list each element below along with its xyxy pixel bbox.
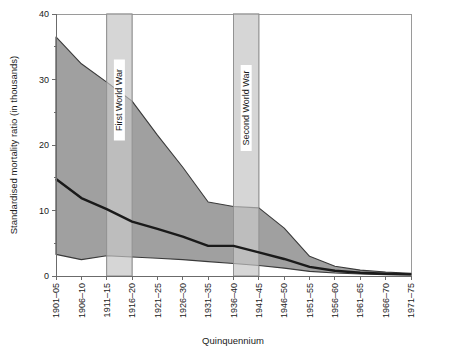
mortality-ratio-area-chart: 010203040 1901–051906–101911–151916–2019…: [0, 0, 455, 349]
y-tick-label: 0: [44, 271, 49, 281]
y-tick-label: 10: [39, 206, 49, 216]
x-tick-label: 1951–55: [305, 283, 315, 318]
x-tick-label: 1961–65: [355, 283, 365, 318]
x-tick-label: 1901–05: [51, 283, 61, 318]
y-tick-label: 30: [39, 75, 49, 85]
x-tick-label: 1966–70: [381, 283, 391, 318]
x-tick-label: 1921–25: [153, 283, 163, 318]
x-tick-label: 1926–30: [178, 283, 188, 318]
x-tick-label: 1946–50: [279, 283, 289, 318]
war-period-band: [107, 14, 132, 276]
chart-container: 010203040 1901–051906–101911–151916–2019…: [0, 0, 455, 349]
x-tick-label: 1911–15: [102, 283, 112, 317]
war-period-label: Second World War: [241, 70, 251, 145]
war-period-label: First World War: [114, 69, 124, 131]
x-axis-ticks: 1901–051906–101911–151916–201921–251926–…: [51, 276, 416, 318]
x-tick-label: 1906–10: [77, 283, 87, 318]
x-tick-label: 1941–45: [254, 283, 264, 318]
x-tick-label: 1931–35: [203, 283, 213, 318]
x-tick-label: 1936–40: [229, 283, 239, 318]
y-tick-label: 40: [39, 9, 49, 19]
y-axis-title: Standardised mortality ratio (in thousan…: [8, 56, 19, 234]
x-tick-label: 1971–75: [406, 283, 416, 318]
x-tick-label: 1916–20: [127, 283, 137, 318]
y-tick-label: 20: [39, 140, 49, 150]
y-axis-ticks: 010203040: [39, 9, 56, 281]
x-tick-label: 1956–60: [330, 283, 340, 318]
x-axis-title: Quinquennium: [202, 335, 264, 346]
